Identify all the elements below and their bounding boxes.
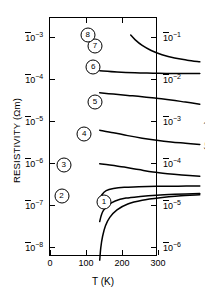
y-tick-left bbox=[50, 37, 55, 38]
y-tick-left bbox=[50, 247, 55, 248]
curve-label-6: 6 bbox=[86, 60, 101, 75]
y-tick-label-left: 10−6 bbox=[25, 157, 43, 169]
y-tick-label-left: 10−3 bbox=[25, 31, 43, 43]
y-tick-left bbox=[50, 121, 55, 122]
y-tick-label-left: 10−4 bbox=[25, 73, 43, 85]
y-tick-label-left: 10−7 bbox=[25, 199, 43, 211]
curve-label-3: 3 bbox=[56, 157, 71, 172]
y-tick-left bbox=[50, 163, 55, 164]
x-tick-label: 0 bbox=[47, 258, 52, 268]
curve-label-8: 8 bbox=[80, 27, 95, 42]
curve-label-5: 5 bbox=[88, 94, 103, 109]
curve-label-4: 4 bbox=[77, 127, 92, 142]
y-tick-left bbox=[50, 79, 55, 80]
y-axis-title-left: RESISTIVITY (Ωm) bbox=[11, 91, 22, 191]
x-tick bbox=[86, 250, 87, 255]
x-tick-label: 100 bbox=[78, 258, 93, 268]
x-tick bbox=[50, 250, 51, 255]
x-axis-title-text: T (K) bbox=[92, 276, 114, 287]
curve-4 bbox=[100, 164, 200, 177]
figure: RESISTIVITY (Ωm) ρ (Ω cm) 10−310−410−510… bbox=[0, 0, 205, 296]
curve-5 bbox=[100, 130, 200, 144]
plot-area: 10−310−410−510−610−710−8 10−110−210−310−… bbox=[49, 17, 157, 256]
curve-1 bbox=[100, 195, 200, 260]
y-axis-title-left-text: RESISTIVITY (Ωm) bbox=[11, 98, 22, 183]
curve-6 bbox=[100, 93, 200, 104]
curve-layer bbox=[99, 35, 205, 274]
curve-8 bbox=[131, 35, 200, 62]
curve-label-2: 2 bbox=[54, 189, 69, 204]
x-tick-top bbox=[86, 18, 87, 23]
curve-label-1: 1 bbox=[97, 195, 112, 210]
curve-2 bbox=[100, 193, 200, 221]
x-tick-top bbox=[122, 18, 123, 23]
y-tick-left bbox=[50, 205, 55, 206]
curve-7 bbox=[100, 71, 200, 74]
y-tick-label-left: 10−8 bbox=[25, 241, 43, 253]
curve-3 bbox=[100, 186, 200, 200]
x-axis-title: T (K) bbox=[49, 276, 157, 287]
y-tick-label-left: 10−5 bbox=[25, 115, 43, 127]
